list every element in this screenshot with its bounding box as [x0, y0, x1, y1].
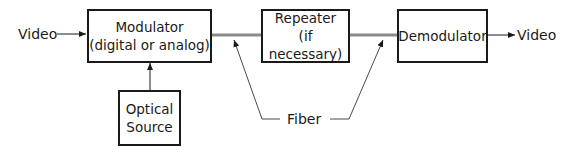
- optical-source-subtitle: Source: [126, 118, 172, 136]
- repeater-title: Repeater: [275, 9, 336, 27]
- modulator-block: Modulator (digital or analog): [87, 9, 212, 63]
- demodulator-title: Demodulator: [398, 27, 486, 45]
- modulator-subtitle: (digital or analog): [89, 36, 210, 54]
- optical-source-title: Optical: [126, 100, 174, 118]
- modulator-title: Modulator: [115, 18, 183, 36]
- video-input-label: Video: [18, 26, 57, 42]
- repeater-subtitle: (if necessary): [263, 27, 348, 63]
- video-output-label: Video: [517, 27, 556, 43]
- demodulator-block: Demodulator: [397, 9, 488, 63]
- fiber-label: Fiber: [287, 111, 321, 127]
- optical-source-block: Optical Source: [118, 90, 181, 146]
- repeater-block: Repeater (if necessary): [261, 9, 350, 63]
